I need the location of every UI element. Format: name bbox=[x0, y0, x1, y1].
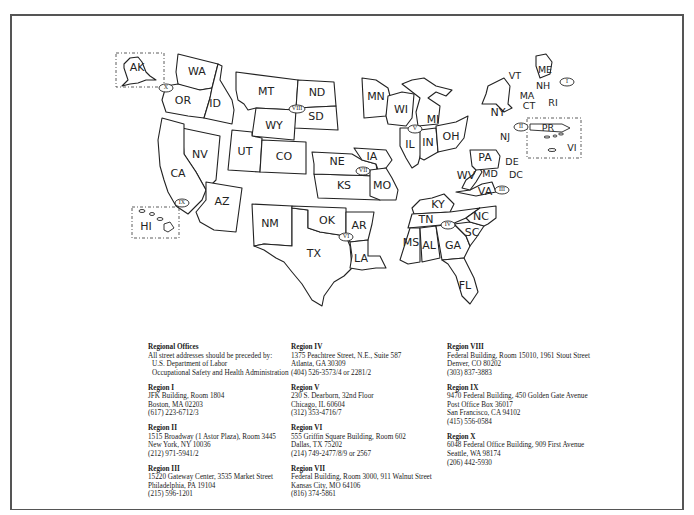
svg-text:VII: VII bbox=[359, 167, 367, 173]
state-label-ny: NY bbox=[491, 106, 506, 119]
svg-text:I: I bbox=[566, 78, 568, 84]
svg-text:X: X bbox=[164, 84, 169, 90]
region-marker-iv: IV bbox=[441, 221, 455, 229]
address-line: Federal Building, Room 15010, 1961 Stout… bbox=[447, 352, 590, 361]
state-label-ga: GA bbox=[445, 239, 462, 252]
intro-line: All street addresses should be preceded … bbox=[148, 352, 289, 361]
region-name: Region VII bbox=[291, 465, 432, 474]
state-label-id: ID bbox=[209, 97, 221, 110]
region-name: Region IV bbox=[291, 343, 432, 352]
state-label-az: AZ bbox=[214, 195, 230, 208]
state-label-fl: FL bbox=[459, 279, 472, 292]
state-label-wv: WV bbox=[457, 169, 476, 182]
state-label-ri: RI bbox=[548, 97, 557, 108]
state-label-ks: KS bbox=[337, 179, 351, 192]
svg-text:VI: VI bbox=[343, 233, 349, 239]
region-marker-ix: IX bbox=[175, 199, 189, 207]
svg-text:IV: IV bbox=[445, 221, 452, 227]
region-marker-vii: VII bbox=[356, 167, 370, 175]
state-label-ky: KY bbox=[431, 198, 445, 211]
state-label-vt: VT bbox=[509, 70, 521, 81]
offices-column-1: Regional Offices All street addresses sh… bbox=[148, 343, 289, 505]
us-regions-map: AK WA OR ID MT ND SD WY UT CO NV CA AZ H… bbox=[0, 0, 694, 330]
state-label-me: ME bbox=[538, 64, 552, 75]
svg-text:III: III bbox=[499, 186, 505, 192]
state-label-mn: MN bbox=[367, 90, 385, 103]
region-marker-viii: VIII bbox=[289, 105, 305, 113]
region-name: Region III bbox=[148, 465, 289, 474]
state-label-or: OR bbox=[175, 94, 192, 107]
phone: (303) 837-3883 bbox=[447, 369, 590, 378]
region-name: Region VIII bbox=[447, 343, 590, 352]
state-label-hi: HI bbox=[140, 220, 152, 233]
region-name: Region VI bbox=[291, 424, 432, 433]
phone: (816) 374-5861 bbox=[291, 490, 432, 499]
address-line: Atlanta, GA 30309 bbox=[291, 360, 432, 369]
state-label-oh: OH bbox=[443, 130, 460, 143]
region-name: Region II bbox=[148, 424, 289, 433]
offices-intro: Regional Offices All street addresses sh… bbox=[148, 343, 289, 377]
address-line: 230 S. Dearborn, 32nd Floor bbox=[291, 392, 432, 401]
office-region-vii: Region VII Federal Building, Room 3000, … bbox=[291, 465, 432, 499]
address-line: Dallas, TX 75202 bbox=[291, 441, 432, 450]
office-region-iii: Region III 15220 Gateway Center, 3535 Ma… bbox=[148, 465, 289, 499]
state-label-mi: MI bbox=[427, 113, 440, 126]
state-label-tx: TX bbox=[306, 247, 322, 260]
region-name: Region IX bbox=[447, 384, 590, 393]
state-label-wy: WY bbox=[265, 119, 283, 132]
state-label-nv: NV bbox=[192, 148, 208, 161]
phone: (312) 353-4716/7 bbox=[291, 409, 432, 418]
region-name: Region X bbox=[447, 433, 590, 442]
region-marker-iii: III bbox=[495, 186, 509, 194]
phone: (617) 223-6712/3 bbox=[148, 409, 289, 418]
state-label-pa: PA bbox=[478, 151, 492, 164]
state-label-al: AL bbox=[422, 239, 437, 252]
phone: (404) 526-3573/4 or 2281/2 bbox=[291, 369, 432, 378]
region-name: Region I bbox=[148, 384, 289, 393]
state-label-sd: SD bbox=[308, 110, 323, 123]
state-label-sc: SC bbox=[465, 226, 480, 239]
state-label-nh: NH bbox=[536, 80, 550, 91]
office-region-i: Region I JFK Building, Room 1804 Boston,… bbox=[148, 384, 289, 418]
address-line: 15220 Gateway Center, 3535 Market Street bbox=[148, 473, 289, 482]
office-region-viii: Region VIII Federal Building, Room 15010… bbox=[447, 343, 590, 377]
state-label-md: MD bbox=[482, 168, 498, 179]
hawaii-inset: HI bbox=[132, 207, 179, 238]
address-line: Denver, CO 80202 bbox=[447, 360, 590, 369]
state-label-nc: NC bbox=[473, 210, 489, 223]
address-line: 9470 Federal Building, 450 Golden Gate A… bbox=[447, 392, 590, 401]
svg-text:IX: IX bbox=[179, 199, 186, 205]
state-label-mo: MO bbox=[373, 179, 391, 192]
office-region-ii: Region II 1515 Broadway (1 Astor Plaza),… bbox=[148, 424, 289, 458]
address-line: San Francisco, CA 94102 bbox=[447, 409, 590, 418]
svg-text:VIII: VIII bbox=[292, 105, 302, 111]
phone: (215) 596-1201 bbox=[148, 490, 289, 499]
address-line: Philadelphia, PA 19104 bbox=[148, 482, 289, 491]
svg-text:II: II bbox=[519, 123, 523, 129]
office-region-v: Region V 230 S. Dearborn, 32nd Floor Chi… bbox=[291, 384, 432, 418]
state-label-nd: ND bbox=[309, 86, 326, 99]
offices-column-3: Region VIII Federal Building, Room 15010… bbox=[447, 343, 590, 473]
state-label-la: LA bbox=[354, 252, 368, 265]
address-line: Kansas City, MO 64106 bbox=[291, 482, 432, 491]
region-marker-vi: VI bbox=[339, 233, 353, 241]
state-label-wa: WA bbox=[188, 65, 206, 78]
state-label-ne: NE bbox=[329, 155, 344, 168]
address-line: 1515 Broadway (1 Astor Plaza), Room 3445 bbox=[148, 433, 289, 442]
state-label-tn: TN bbox=[418, 213, 434, 226]
state-label-co: CO bbox=[276, 150, 293, 163]
region-name: Region V bbox=[291, 384, 432, 393]
state-label-ia: IA bbox=[367, 150, 378, 163]
state-label-pr: PR bbox=[542, 122, 555, 133]
state-label-de: DE bbox=[505, 156, 518, 167]
state-label-dc: DC bbox=[509, 169, 523, 180]
state-label-ut: UT bbox=[238, 145, 253, 158]
state-label-va: VA bbox=[478, 185, 493, 198]
office-region-vi: Region VI 555 Griffin Square Building, R… bbox=[291, 424, 432, 458]
state-label-vi: VI bbox=[567, 142, 576, 153]
office-region-iv: Region IV 1375 Peachtree Street, N.E., S… bbox=[291, 343, 432, 377]
office-region-x: Region X 6048 Federal Office Building, 9… bbox=[447, 433, 590, 467]
state-label-ok: OK bbox=[319, 214, 336, 227]
address-line: 1375 Peachtree Street, N.E., Suite 587 bbox=[291, 352, 432, 361]
svg-text:V: V bbox=[413, 125, 418, 131]
